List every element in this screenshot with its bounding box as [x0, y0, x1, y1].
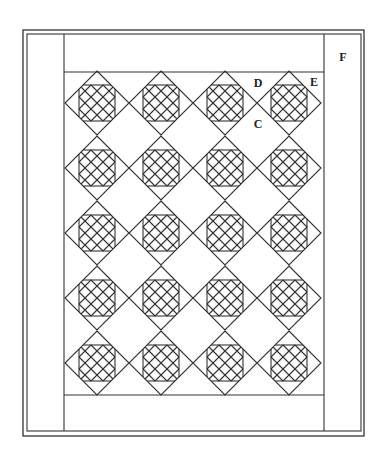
label-c: C	[254, 117, 263, 131]
quilt-block	[65, 201, 129, 265]
quilt-block	[129, 136, 193, 200]
quilt-block	[65, 266, 129, 330]
quilt-block	[257, 136, 321, 200]
quilt-block	[257, 331, 321, 395]
quilt-block	[193, 136, 257, 200]
quilt-block	[193, 266, 257, 330]
quilt-block	[257, 266, 321, 330]
quilt-block	[129, 201, 193, 265]
quilt-block	[65, 136, 129, 200]
quilt-block	[129, 266, 193, 330]
label-d: D	[254, 76, 263, 90]
label-e: E	[310, 75, 318, 89]
quilt-block	[193, 331, 257, 395]
quilt-block	[129, 71, 193, 135]
quilt-block	[65, 71, 129, 135]
quilt-block	[193, 201, 257, 265]
quilt-block	[193, 71, 257, 135]
block-grid	[65, 71, 321, 395]
label-f: F	[339, 50, 346, 64]
quilt-block	[257, 201, 321, 265]
quilt-block	[129, 331, 193, 395]
quilt-diagram: D E C F	[0, 0, 384, 458]
quilt-block	[65, 331, 129, 395]
